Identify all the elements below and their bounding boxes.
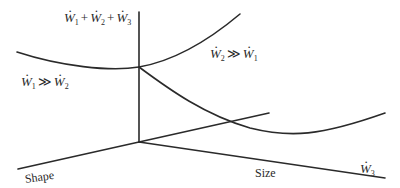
subscript: 3 — [371, 169, 375, 178]
subscript: 1 — [254, 54, 258, 63]
w2-symbol: W — [54, 75, 65, 88]
right-regime-label: W2≫W1 — [210, 47, 258, 63]
w2-symbol: W — [210, 47, 221, 60]
w1-symbol: W — [243, 47, 254, 60]
w3-symbol: W — [360, 162, 371, 175]
w1-symbol: W — [21, 75, 32, 88]
diagram-canvas — [0, 0, 400, 188]
valley-curve — [139, 67, 385, 134]
total-power-label: W1+W2+W3 — [64, 11, 131, 27]
plus-operator: + — [79, 10, 90, 25]
w2-symbol: W — [90, 11, 101, 24]
much-greater-operator: ≫ — [225, 46, 243, 61]
subscript: 2 — [65, 82, 69, 91]
left-regime-label: W1≫W2 — [21, 75, 69, 91]
shape-axis — [18, 142, 139, 169]
plus-operator: + — [105, 10, 116, 25]
subscript: 3 — [127, 18, 131, 27]
w3-axis-label: W3 — [360, 162, 375, 178]
w3-symbol: W — [116, 11, 127, 24]
w1-symbol: W — [64, 11, 75, 24]
size-axis-label: Size — [255, 167, 276, 179]
much-greater-operator: ≫ — [36, 74, 54, 89]
